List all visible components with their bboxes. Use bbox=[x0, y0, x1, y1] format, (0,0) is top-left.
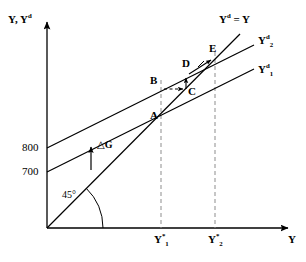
y-tick-700: 700 bbox=[22, 166, 39, 177]
delta-g-label: △G bbox=[97, 140, 112, 150]
point-label-d: D bbox=[182, 58, 190, 69]
y-axis-title: Y, Yd bbox=[8, 14, 32, 25]
point-label-a: A bbox=[150, 110, 158, 121]
keynesian-cross-figure: Y, Yd Y 800 700 Y*1 Y*2 Yd = Y Yd2 Yd1 A… bbox=[0, 0, 306, 262]
aggregate-demand-line-2 bbox=[47, 45, 254, 148]
curve-label-yd1: Yd1 bbox=[258, 64, 273, 75]
angle-arc bbox=[86, 188, 103, 228]
schedule-lines bbox=[47, 34, 254, 228]
angle-label-45: 45° bbox=[62, 190, 76, 200]
curve-label-45-degree: Yd = Y bbox=[219, 14, 250, 25]
axis-lines bbox=[47, 22, 288, 228]
x-tick-y2-star: Y*2 bbox=[208, 234, 223, 245]
point-label-e: E bbox=[209, 43, 216, 54]
curve-label-yd2: Yd2 bbox=[258, 35, 273, 46]
point-label-c: C bbox=[188, 86, 196, 97]
y-tick-800: 800 bbox=[22, 142, 39, 153]
x-axis-title: Y bbox=[288, 234, 296, 245]
x-tick-y1-star: Y*1 bbox=[154, 234, 169, 245]
point-label-b: B bbox=[150, 75, 157, 86]
